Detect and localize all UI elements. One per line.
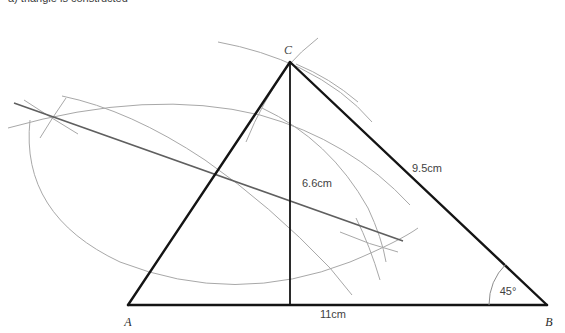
triangle-side-ac (128, 62, 290, 305)
vertex-label-c: C (284, 43, 293, 57)
perpendicular-bisector-line (14, 103, 403, 241)
construction-tick-arc-right-a (340, 232, 398, 252)
construction-arc-through-apex-left (218, 42, 372, 122)
measurement-label-altitude: 6.6cm (302, 177, 332, 189)
construction-arc-through-apex-right (246, 38, 318, 142)
construction-arc-lower-lens (29, 120, 418, 285)
measurement-label-base: 11cm (320, 308, 346, 320)
vertex-label-a: A (123, 315, 132, 329)
measurement-label-side-cb: 9.5cm (412, 162, 442, 174)
construction-tick-arc-left-b (40, 98, 66, 138)
measurement-label-angle-b: 45° (500, 285, 517, 297)
construction-tick-arc-left-a (24, 100, 78, 134)
vertex-label-b: B (545, 315, 553, 329)
geometry-figure: A B C 11cm 9.5cm 6.6cm 45° (0, 0, 565, 333)
construction-arc-steep-left (62, 96, 352, 295)
